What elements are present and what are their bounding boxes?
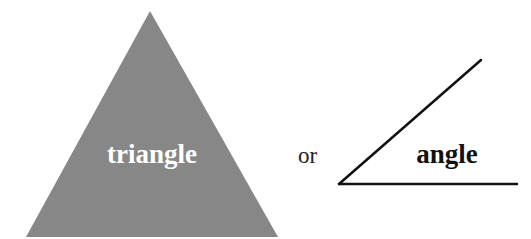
triangle-shape (26, 11, 278, 237)
triangle-label: triangle (107, 139, 197, 169)
diagram-canvas: triangle or angle (0, 0, 531, 239)
or-connector-label: or (298, 143, 318, 168)
angle-label: angle (416, 139, 478, 169)
